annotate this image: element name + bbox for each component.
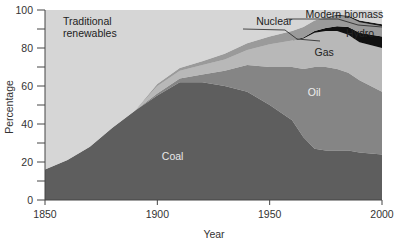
label-traditional-renewables: Traditionalrenewables: [63, 15, 117, 39]
y-tick-label: 0: [27, 194, 33, 206]
y-tick-label: 40: [21, 118, 33, 130]
label-gas: Gas: [315, 46, 334, 58]
y-tick-label: 60: [21, 80, 33, 92]
x-tick-label: 1850: [33, 208, 57, 220]
y-tick-label: 80: [21, 42, 33, 54]
x-tick-label: 1950: [258, 208, 282, 220]
y-tick-label: 20: [21, 156, 33, 168]
label-modern-biomass: Modern biomass: [306, 8, 384, 20]
label-coal: Coal: [162, 150, 184, 162]
y-tick-label: 100: [15, 4, 33, 16]
label-oil: Oil: [308, 86, 321, 98]
y-axis-label: Percentage: [3, 80, 15, 134]
label-nuclear: Nuclear: [256, 15, 293, 27]
stacked-area-chart: 0204060801001850190019502000 Traditional…: [0, 0, 397, 243]
x-tick-label: 1900: [146, 208, 170, 220]
x-tick-label: 2000: [370, 208, 394, 220]
label-hydro: Hydro: [346, 27, 374, 39]
x-axis-label: Year: [203, 228, 225, 240]
